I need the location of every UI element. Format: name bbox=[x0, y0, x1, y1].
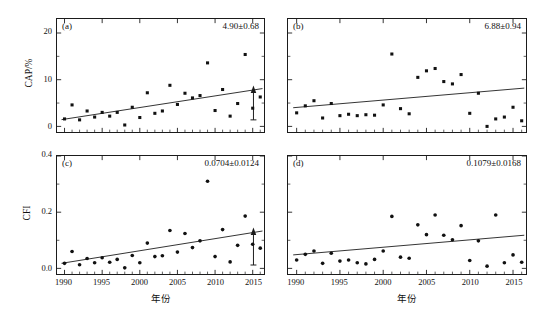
x-tick-label: 1990 bbox=[278, 278, 314, 287]
panel-c-annotation: 0.0704±0.0124 bbox=[205, 159, 259, 168]
figure-root: (a) 4.90±0.68 (b) 6.88±0.94 (c) 0.0704±0… bbox=[0, 0, 539, 318]
y-tick-label: 10 bbox=[22, 75, 52, 84]
panel-c: (c) 0.0704±0.0124 bbox=[56, 155, 265, 275]
x-tick-label: 2005 bbox=[160, 278, 196, 287]
x-axis-label-right: 年份 bbox=[287, 295, 527, 305]
panel-d-annotation: 0.1079±0.0168 bbox=[467, 159, 521, 168]
x-tick-label: 1995 bbox=[321, 278, 357, 287]
panel-c-tag: (c) bbox=[62, 159, 72, 168]
x-tick-label: 2000 bbox=[122, 278, 158, 287]
panel-b: (b) 6.88±0.94 bbox=[287, 18, 527, 133]
data-points bbox=[63, 53, 262, 127]
panel-d-tag: (d) bbox=[293, 159, 304, 168]
data-points bbox=[63, 179, 262, 269]
x-axis-label-left: 年份 bbox=[56, 295, 265, 305]
x-tick-label: 2015 bbox=[496, 278, 532, 287]
y-tick-label: 0.2 bbox=[22, 207, 52, 216]
y-tick-label: 0 bbox=[22, 122, 52, 131]
panel-a-plot bbox=[57, 19, 264, 132]
panel-a-tag: (a) bbox=[62, 22, 72, 31]
y-tick-label: 0.4 bbox=[22, 150, 52, 159]
panel-d: (d) 0.1079±0.0168 bbox=[287, 155, 527, 275]
panel-d-plot bbox=[288, 156, 526, 274]
panel-a-annotation: 4.90±0.68 bbox=[223, 22, 259, 31]
y-axis-label-cap: CAP/% bbox=[24, 43, 34, 103]
cropped-header-text bbox=[0, 0, 539, 11]
panel-b-tag: (b) bbox=[293, 22, 304, 31]
panel-c-plot bbox=[57, 156, 264, 274]
panel-b-annotation: 6.88±0.94 bbox=[485, 22, 521, 31]
y-tick-label: 0.0 bbox=[22, 264, 52, 273]
x-tick-label: 2000 bbox=[365, 278, 401, 287]
x-tick-label: 2015 bbox=[236, 278, 272, 287]
data-points bbox=[295, 213, 524, 268]
panel-b-plot bbox=[288, 19, 526, 132]
data-points bbox=[295, 52, 523, 127]
x-tick-label: 2010 bbox=[452, 278, 488, 287]
x-tick-label: 2010 bbox=[198, 278, 234, 287]
x-tick-label: 2005 bbox=[409, 278, 445, 287]
x-tick-label: 1995 bbox=[84, 278, 120, 287]
x-tick-label: 1990 bbox=[46, 278, 82, 287]
panel-a: (a) 4.90±0.68 bbox=[56, 18, 265, 133]
y-tick-label: 20 bbox=[22, 27, 52, 36]
